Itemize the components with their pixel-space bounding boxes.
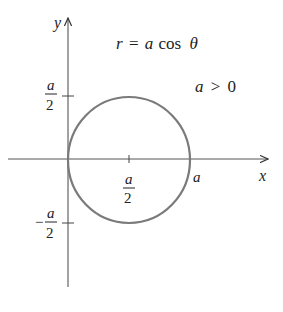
svg-text:2: 2 [46, 97, 54, 113]
x-tick-label-a: a [193, 169, 201, 185]
y-tick-label-a-half: a 2 [45, 77, 57, 113]
y-tick-label-neg-a-half: − a 2 [35, 205, 57, 241]
x-axis-label: x [258, 167, 266, 184]
x-tick-label-a-half: a 2 [123, 171, 135, 206]
svg-text:2: 2 [124, 190, 132, 206]
svg-text:a: a [47, 77, 55, 93]
y-axis-label: y [52, 14, 62, 32]
polar-graph: y x r = a cos θ a > 0 a 2 − a 2 a 2 a [0, 0, 283, 312]
condition-label: a > 0 [195, 77, 236, 96]
svg-text:a: a [47, 205, 55, 221]
equation-label: r = a cos θ [116, 34, 198, 53]
svg-text:−: − [35, 214, 43, 230]
svg-text:a: a [125, 171, 133, 187]
svg-text:2: 2 [46, 225, 54, 241]
